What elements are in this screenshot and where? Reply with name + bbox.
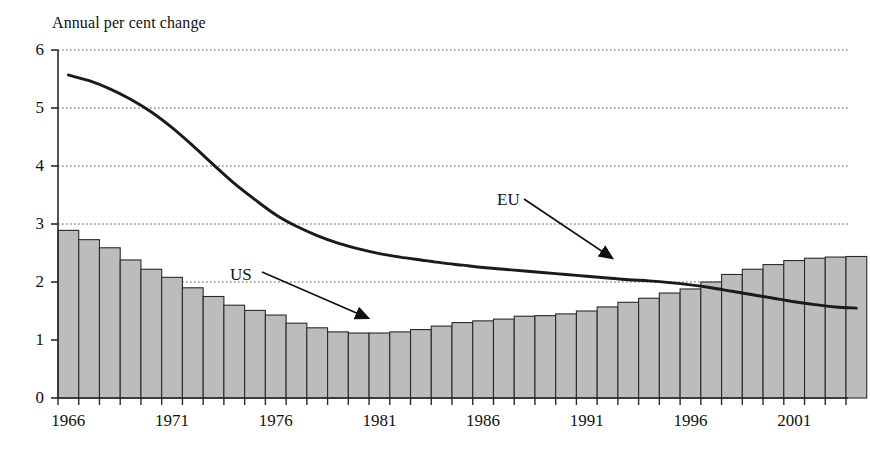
bar [141, 269, 162, 398]
x-axis-tick-label: 1971 [155, 412, 189, 429]
bar [265, 315, 286, 398]
bar [597, 307, 618, 398]
y-axis-tick-label: 0 [16, 389, 44, 406]
bar [556, 314, 577, 398]
bar [618, 302, 639, 398]
bar [452, 323, 473, 398]
bar [79, 240, 100, 398]
chart-plot-area [0, 0, 870, 453]
bar [493, 319, 514, 398]
x-axis-ticks [58, 398, 846, 405]
bar [431, 326, 452, 398]
bar [701, 282, 722, 398]
bar [680, 289, 701, 398]
bar [742, 269, 763, 398]
bar [576, 311, 597, 398]
line-series-eu [68, 75, 856, 308]
x-axis-tick-label: 1986 [466, 412, 500, 429]
x-axis-tick-label: 1981 [362, 412, 396, 429]
x-axis-tick-label: 1991 [570, 412, 604, 429]
bar [846, 256, 867, 398]
y-axis-tick-label: 3 [16, 215, 44, 232]
bar [784, 261, 805, 398]
y-axis-ticks [51, 50, 58, 398]
bar [203, 297, 224, 399]
bar [307, 328, 328, 398]
y-axis-tick-label: 5 [16, 99, 44, 116]
bar [805, 258, 826, 398]
x-axis-tick-label: 1966 [51, 412, 85, 429]
bar [390, 332, 411, 398]
y-axis-tick-label: 2 [16, 273, 44, 290]
bar [825, 257, 846, 398]
bar [411, 330, 432, 398]
bar [348, 333, 369, 398]
annotation-arrows [262, 199, 612, 318]
y-axis-tick-label: 6 [16, 41, 44, 58]
bar [659, 293, 680, 398]
bar [182, 288, 203, 398]
bar [224, 305, 245, 398]
bar [328, 332, 349, 398]
bar [639, 298, 660, 398]
bar [58, 230, 79, 398]
y-axis-tick-label: 1 [16, 331, 44, 348]
series-annotation-us: US [230, 265, 252, 285]
bar [245, 310, 266, 398]
series-annotation-eu: EU [497, 190, 520, 210]
bar [514, 316, 535, 398]
bar-series-us [58, 230, 867, 398]
bar [162, 277, 183, 398]
bar [535, 316, 556, 398]
bar [763, 265, 784, 398]
bar [473, 321, 494, 398]
bar [286, 323, 307, 398]
bar [369, 333, 390, 398]
bar [120, 260, 141, 398]
x-axis-tick-label: 2001 [777, 412, 811, 429]
bar [99, 248, 120, 398]
x-axis-tick-label: 1976 [259, 412, 293, 429]
x-axis-tick-label: 1996 [673, 412, 707, 429]
y-axis-tick-label: 4 [16, 157, 44, 174]
chart-figure: Annual per cent change 0123456 196619711… [0, 0, 870, 453]
